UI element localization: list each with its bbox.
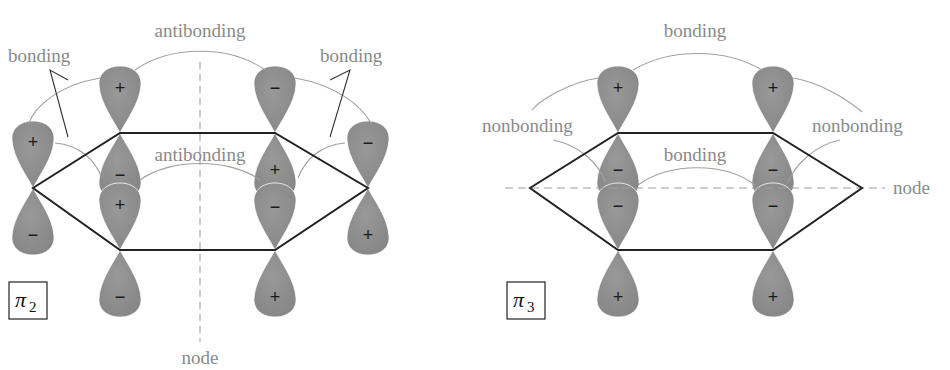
pi3-diagram: + − + − − + − + bonding nonbonding nonbo… xyxy=(482,20,930,319)
sign-lower-left-top: + xyxy=(115,195,126,215)
benzene-pi-orbitals-diagram: + − − + − + − + + − + − antibonding bond… xyxy=(0,0,950,370)
label-node-pi3: node xyxy=(893,177,930,198)
label-antibonding-inner: antibonding xyxy=(155,144,246,165)
sign-left-bottom: − xyxy=(28,225,39,245)
sign-upper-right-bottom: − xyxy=(768,160,779,180)
sign-lower-left-bottom: − xyxy=(115,287,126,307)
pi-subscript: 2 xyxy=(29,299,37,315)
lobe xyxy=(99,66,141,133)
lobe xyxy=(752,66,794,133)
sign-lower-right-top: − xyxy=(270,197,281,217)
sign-upper-right-bottom: + xyxy=(270,160,281,180)
pi-symbol: π xyxy=(15,287,27,312)
sign-lower-right-top: − xyxy=(768,196,779,216)
lobe xyxy=(597,66,639,133)
sign-upper-left-bottom: − xyxy=(115,165,126,185)
label-bonding-inner: bonding xyxy=(664,144,727,165)
sign-right-top: − xyxy=(363,133,374,153)
label-bonding-top: bonding xyxy=(664,20,727,41)
label-node-pi2: node xyxy=(182,347,219,368)
sign-upper-left-bottom: − xyxy=(613,160,624,180)
lobe xyxy=(347,121,389,188)
sign-lower-right-bottom: + xyxy=(270,287,281,307)
sign-upper-left-top: + xyxy=(115,78,126,98)
label-antibonding-top: antibonding xyxy=(155,20,246,41)
sign-right-bottom: + xyxy=(363,225,374,245)
pi-symbol: π xyxy=(513,287,525,312)
lobe xyxy=(254,66,296,133)
sign-upper-left-top: + xyxy=(613,78,624,98)
pi-subscript: 3 xyxy=(527,299,535,315)
label-nonbonding-right: nonbonding xyxy=(812,115,903,136)
sign-left-top: + xyxy=(28,132,39,152)
pi3-lobes xyxy=(597,66,794,317)
label-bonding-left: bonding xyxy=(8,45,71,66)
sign-lower-left-top: − xyxy=(613,196,624,216)
pi2-diagram: + − − + − + − + + − + − antibonding bond… xyxy=(8,20,389,368)
sign-upper-right-top: − xyxy=(270,78,281,98)
sign-lower-right-bottom: + xyxy=(768,287,779,307)
pi3-label-box: π 3 xyxy=(507,282,545,319)
pi2-label-box: π 2 xyxy=(9,282,47,319)
label-bonding-right: bonding xyxy=(320,45,383,66)
sign-upper-right-top: + xyxy=(768,78,779,98)
sign-lower-left-bottom: + xyxy=(613,287,624,307)
label-nonbonding-left: nonbonding xyxy=(482,115,573,136)
